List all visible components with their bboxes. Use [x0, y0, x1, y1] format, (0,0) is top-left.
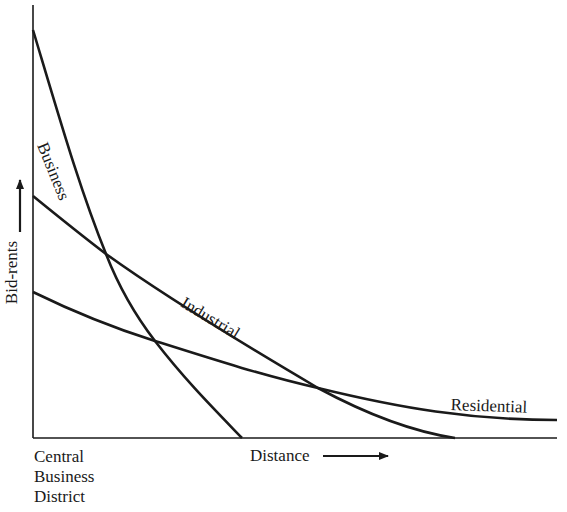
business-curve	[33, 30, 242, 438]
cbd-label: Central Business District	[34, 447, 94, 507]
y-axis-label: Bid-rents	[3, 241, 20, 304]
residential-label: Residential	[450, 396, 527, 416]
cbd-line-3: District	[34, 487, 94, 507]
cbd-line-1: Central	[34, 447, 94, 467]
cbd-line-2: Business	[34, 467, 94, 487]
x-axis-label: Distance	[250, 447, 309, 464]
bid-rent-diagram	[0, 0, 567, 512]
